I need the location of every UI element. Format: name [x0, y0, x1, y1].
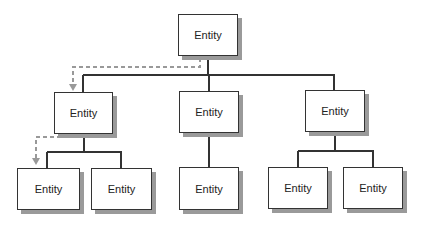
entity-node-l2b1[interactable]: Entity: [179, 167, 239, 210]
entity-node-l2c1[interactable]: Entity: [268, 167, 328, 209]
entity-node-l1b[interactable]: Entity: [179, 91, 239, 133]
entity-label: Entity: [195, 183, 223, 195]
entity-label: Entity: [284, 182, 312, 194]
entity-node-l2a2[interactable]: Entity: [91, 168, 152, 210]
entity-node-root[interactable]: Entity: [178, 14, 238, 56]
entity-node-l2c2[interactable]: Entity: [343, 167, 403, 209]
entity-label: Entity: [359, 182, 387, 194]
entity-node-l1c[interactable]: Entity: [305, 90, 365, 132]
entity-label: Entity: [194, 29, 222, 41]
entity-label: Entity: [108, 183, 136, 195]
entity-node-l2a1[interactable]: Entity: [17, 168, 80, 210]
entity-label: Entity: [35, 183, 63, 195]
entity-label: Entity: [195, 106, 223, 118]
entity-label: Entity: [70, 107, 98, 119]
entity-node-l1a[interactable]: Entity: [54, 92, 113, 134]
entity-label: Entity: [321, 105, 349, 117]
